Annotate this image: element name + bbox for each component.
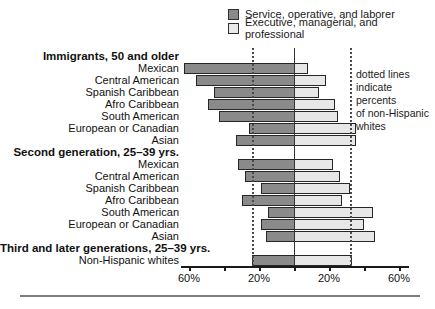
group-header-row: Third and later generations, 25–39 yrs. [0, 242, 435, 254]
service-bar [261, 219, 296, 230]
plot-cell [181, 182, 407, 194]
note-line: whites [356, 120, 435, 133]
plot-cell [181, 254, 407, 266]
group-header-row: Second generation, 25–39 yrs. [0, 146, 435, 158]
service-bar [219, 111, 296, 122]
executive-bar [294, 63, 308, 74]
axis-tick [189, 267, 191, 271]
executive-swatch-icon [228, 23, 239, 34]
axis-tick-label: 20% [311, 272, 347, 284]
plot-cell [181, 242, 407, 254]
executive-bar [294, 219, 364, 230]
data-row: Central American [0, 170, 435, 182]
axis-tick-label: 60% [171, 272, 207, 284]
row-label: South American [0, 206, 181, 218]
x-axis: 60%20%20%60% [181, 266, 407, 290]
executive-bar [294, 207, 373, 218]
service-bar [236, 135, 296, 146]
row-label: European or Canadian [0, 218, 181, 230]
plot-cell [181, 218, 407, 230]
group-header-label: Third and later generations, 25–39 yrs. [0, 242, 181, 254]
data-row: Afro Caribbean [0, 194, 435, 206]
group-header-label: Second generation, 25–39 yrs. [0, 146, 181, 158]
legend-label-executive: Executive, managerial, and professional [245, 16, 435, 40]
plot-cell [181, 230, 407, 242]
row-label: Afro Caribbean [0, 98, 181, 110]
executive-bar [294, 99, 335, 110]
plot-cell [181, 170, 407, 182]
service-bar [196, 75, 296, 86]
service-bar [261, 183, 296, 194]
executive-bar [294, 255, 352, 266]
plot-cell [181, 206, 407, 218]
axis-tick [329, 267, 331, 271]
service-bar [208, 99, 296, 110]
data-row: Mexican [0, 158, 435, 170]
axis-tick [364, 267, 366, 271]
row-label: Spanish Caribbean [0, 86, 181, 98]
executive-bar [294, 75, 326, 86]
row-label: Mexican [0, 158, 181, 170]
axis-tick-label: 20% [241, 272, 277, 284]
axis-tick [294, 267, 296, 271]
axis-tick [224, 267, 226, 271]
executive-bar [294, 135, 356, 146]
row-label: Asian [0, 230, 181, 242]
axis-tick-label: 60% [381, 272, 417, 284]
data-row: Non-Hispanic whites [0, 254, 435, 266]
legend: Service, operative, and laborer Executiv… [228, 7, 435, 35]
row-label: Mexican [0, 62, 181, 74]
row-label: Afro Caribbean [0, 194, 181, 206]
legend-item-executive: Executive, managerial, and professional [228, 21, 435, 35]
executive-bar [294, 183, 350, 194]
executive-bar [294, 195, 342, 206]
plot-cell [181, 134, 407, 146]
service-bar [238, 159, 296, 170]
group-header-row: Immigrants, 50 and older [0, 50, 435, 62]
row-label: Spanish Caribbean [0, 182, 181, 194]
data-row: Asian [0, 134, 435, 146]
data-row: Spanish Caribbean [0, 182, 435, 194]
service-bar [266, 231, 296, 242]
note-line: indicate percents [356, 81, 435, 107]
row-label: European or Canadian [0, 122, 181, 134]
row-label: Central American [0, 74, 181, 86]
executive-bar [294, 159, 333, 170]
service-bar [245, 171, 296, 182]
service-bar [184, 63, 296, 74]
note-line: dotted lines [356, 68, 435, 81]
service-bar [252, 255, 296, 266]
axis-tick [259, 267, 261, 271]
executive-bar [294, 111, 338, 122]
dotted-lines-note: dotted lines indicate percents of non-Hi… [356, 68, 435, 133]
executive-bar [294, 87, 319, 98]
occupation-diverging-bar-chart: Service, operative, and laborer Executiv… [0, 0, 435, 309]
plot-cell [181, 146, 407, 158]
row-label: Non-Hispanic whites [0, 254, 181, 266]
plot-cell [181, 194, 407, 206]
service-bar [242, 195, 297, 206]
data-row: Asian [0, 230, 435, 242]
note-line: of non-Hispanic [356, 107, 435, 120]
service-bar [214, 87, 297, 98]
executive-bar [294, 123, 356, 134]
row-label: Central American [0, 170, 181, 182]
row-label: South American [0, 110, 181, 122]
axis-tick [399, 267, 401, 271]
plot-cell [181, 158, 407, 170]
plot-cell [181, 50, 407, 62]
service-bar [268, 207, 296, 218]
executive-bar [294, 171, 340, 182]
row-label: Asian [0, 134, 181, 146]
data-row: European or Canadian [0, 218, 435, 230]
group-header-label: Immigrants, 50 and older [0, 50, 181, 62]
service-swatch-icon [228, 9, 239, 20]
service-bar [249, 123, 297, 134]
data-row: South American [0, 206, 435, 218]
bottom-rule [20, 295, 420, 297]
executive-bar [294, 231, 375, 242]
